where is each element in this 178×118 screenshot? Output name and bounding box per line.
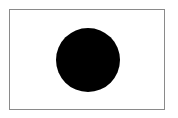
flag-rectangle <box>9 9 165 110</box>
black-disc <box>56 28 120 92</box>
